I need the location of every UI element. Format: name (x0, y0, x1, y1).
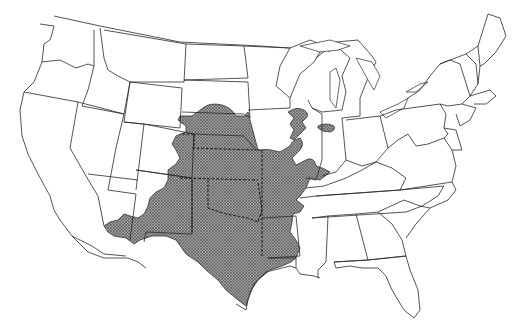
shaded-range (104, 104, 335, 306)
us-map (0, 0, 512, 333)
